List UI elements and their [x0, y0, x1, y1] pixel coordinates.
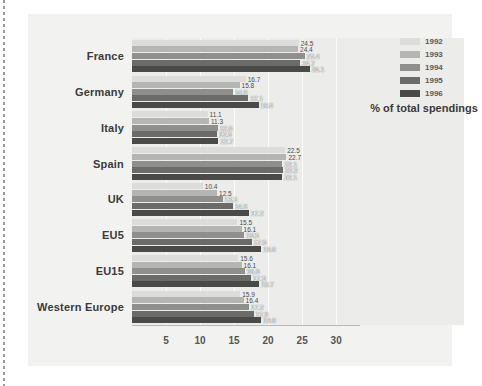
- bar[interactable]: 22.2: [132, 167, 283, 173]
- legend-label-1993: 1993: [425, 50, 443, 59]
- bar-group: EU515.516.116.517.619.0: [132, 217, 360, 253]
- bar[interactable]: 16.1: [132, 262, 242, 268]
- bar[interactable]: 10.4: [132, 183, 203, 189]
- bar[interactable]: 14.8: [132, 203, 233, 209]
- category-label: UK: [108, 193, 124, 205]
- legend-label-1996: 1996: [425, 89, 443, 98]
- bar[interactable]: 17.1: [132, 95, 248, 101]
- bar[interactable]: 22.1: [132, 161, 282, 167]
- bar[interactable]: 19.0: [132, 317, 261, 323]
- x-axis: 51015202530: [132, 325, 360, 365]
- bar[interactable]: 16.4: [132, 297, 244, 303]
- x-tick-label: 5: [163, 335, 169, 346]
- bar-value-label: 19.0: [263, 317, 276, 324]
- bar-value-label: 14.8: [235, 203, 248, 210]
- legend-label-1995: 1995: [425, 76, 443, 85]
- x-tick-label: 15: [229, 335, 240, 346]
- bar[interactable]: 14.8: [132, 89, 233, 95]
- bar[interactable]: 12.6: [132, 125, 218, 131]
- bar[interactable]: 22.7: [132, 154, 286, 160]
- bar-value-label: 12.7: [220, 137, 233, 144]
- bar[interactable]: 17.6: [132, 239, 252, 245]
- bar[interactable]: 15.6: [132, 255, 238, 261]
- x-tick-label: 20: [263, 335, 274, 346]
- bar[interactable]: 12.7: [132, 138, 218, 144]
- page-left-dotted-rule: [3, 0, 5, 386]
- bar[interactable]: 19.0: [132, 246, 261, 252]
- category-label: EU5: [102, 229, 124, 241]
- bar-group: UK10.412.513.314.817.2: [132, 182, 360, 218]
- legend-item[interactable]: 1994: [400, 62, 482, 73]
- plot-area: France24.524.425.424.726.1Germany16.715.…: [132, 38, 360, 325]
- bar[interactable]: 22.5: [132, 147, 285, 153]
- bar[interactable]: 13.3: [132, 196, 223, 202]
- legend-item[interactable]: 1995: [400, 75, 482, 86]
- legend-item[interactable]: 1993: [400, 49, 482, 60]
- category-label: Spain: [93, 158, 124, 170]
- legend-label-1994: 1994: [425, 63, 443, 72]
- bar[interactable]: 22.1: [132, 174, 282, 180]
- bar-group: France24.524.425.424.726.1: [132, 38, 360, 74]
- legend-swatch-1992: [400, 38, 420, 45]
- legend: 1992 1993 1994 1995 1996: [400, 36, 482, 101]
- bar[interactable]: 16.1: [132, 226, 242, 232]
- category-label: EU15: [96, 265, 124, 277]
- bar[interactable]: 17.9: [132, 311, 254, 317]
- x-tick-label: 25: [297, 335, 308, 346]
- bar[interactable]: 17.2: [132, 304, 249, 310]
- bar-value-label: 14.8: [235, 88, 248, 95]
- category-label: Western Europe: [37, 301, 124, 313]
- bar-group: Spain22.522.722.122.222.1: [132, 146, 360, 182]
- bar[interactable]: 15.5: [132, 219, 237, 225]
- bar[interactable]: 17.5: [132, 275, 251, 281]
- bar[interactable]: 18.7: [132, 281, 259, 287]
- category-label: France: [87, 50, 124, 62]
- legend-swatch-1996: [400, 90, 420, 97]
- bar[interactable]: 26.1: [132, 66, 310, 72]
- category-label: Italy: [101, 122, 124, 134]
- bar-value-label: 17.2: [251, 209, 264, 216]
- legend-swatch-1994: [400, 64, 420, 71]
- bar[interactable]: 12.5: [132, 131, 217, 137]
- bar[interactable]: 24.5: [132, 40, 299, 46]
- bar[interactable]: 15.9: [132, 291, 240, 297]
- legend-label-1992: 1992: [425, 37, 443, 46]
- bar-group: Western Europe15.916.417.217.919.0: [132, 289, 360, 325]
- bar[interactable]: 24.7: [132, 60, 300, 66]
- bar[interactable]: 17.2: [132, 210, 249, 216]
- legend-item[interactable]: 1992: [400, 36, 482, 47]
- bar-group: Germany16.715.814.817.118.6: [132, 74, 360, 110]
- bar[interactable]: 25.4: [132, 53, 305, 59]
- bar[interactable]: 18.6: [132, 102, 259, 108]
- bar-value-label: 26.1: [312, 66, 325, 73]
- x-tick-label: 10: [194, 335, 205, 346]
- bar-value-label: 10.4: [205, 183, 218, 190]
- legend-swatch-1993: [400, 51, 420, 58]
- bar-value-label: 18.7: [261, 281, 274, 288]
- bar[interactable]: 16.5: [132, 232, 244, 238]
- chart-card: France24.524.425.424.726.1Germany16.715.…: [28, 14, 452, 366]
- bar-value-label: 19.0: [263, 245, 276, 252]
- category-label: Germany: [75, 86, 124, 98]
- x-axis-line: [132, 325, 360, 326]
- bar-group: EU1515.616.116.617.518.7: [132, 253, 360, 289]
- bar[interactable]: 11.3: [132, 118, 209, 124]
- bar[interactable]: 16.6: [132, 268, 245, 274]
- legend-swatch-1995: [400, 77, 420, 84]
- bar[interactable]: 15.8: [132, 82, 240, 88]
- bar[interactable]: 11.1: [132, 111, 208, 117]
- bar[interactable]: 16.7: [132, 76, 246, 82]
- bar-value-label: 22.1: [284, 173, 297, 180]
- bar-value-label: 18.6: [261, 102, 274, 109]
- bar-group: Italy11.111.312.612.512.7: [132, 110, 360, 146]
- x-tick-label: 30: [331, 335, 342, 346]
- legend-item[interactable]: 1996: [400, 88, 482, 99]
- bar[interactable]: 12.5: [132, 190, 217, 196]
- bar[interactable]: 24.4: [132, 46, 298, 52]
- axis-title: % of total spendings: [358, 102, 482, 114]
